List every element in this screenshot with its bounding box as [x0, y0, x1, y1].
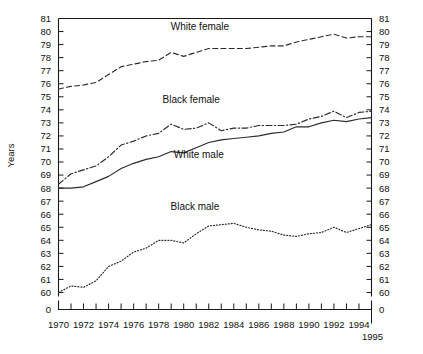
y-tick-label-right: 81 [379, 13, 390, 24]
y-tick-label-left: 68 [40, 183, 51, 194]
y-tick-label-left: 61 [40, 274, 51, 285]
y-tick-label-left: 63 [40, 248, 51, 259]
y-tick-label-left: 81 [40, 13, 51, 24]
y-tick-label-left: 69 [40, 169, 51, 180]
y-tick-label-right: 67 [379, 196, 390, 207]
series-label-black-male: Black male [171, 201, 220, 212]
y-tick-label-left: 75 [40, 91, 51, 102]
x-tick-label: 1984 [223, 319, 244, 330]
x-tick-label: 1986 [248, 319, 269, 330]
y-tick-label-left: 78 [40, 52, 51, 63]
y-tick-label-right: 66 [379, 209, 390, 220]
y-tick-label-right: 79 [379, 39, 390, 50]
y-tick-label-left: 60 [40, 287, 51, 298]
y-tick-label-right: 74 [379, 104, 390, 115]
series-label-black-female: Black female [163, 94, 221, 105]
y-tick-label-left: 72 [40, 130, 51, 141]
y-tick-label-right: 68 [379, 183, 390, 194]
y-tick-label-left: 62 [40, 261, 51, 272]
y-tick-label-right: 76 [379, 78, 390, 89]
y-tick-label-left: 73 [40, 117, 51, 128]
y-tick-label-left: 66 [40, 209, 51, 220]
x-tick-label: 1980 [173, 319, 194, 330]
y-tick-label-left: 79 [40, 39, 51, 50]
y-tick-label-left: 67 [40, 196, 51, 207]
y-tick-label-left: 77 [40, 65, 51, 76]
y-tick-label-right: 78 [379, 52, 390, 63]
y-tick-label-left: 76 [40, 78, 51, 89]
life-expectancy-chart: 8181808079797878777776767575747473737272… [0, 0, 423, 354]
y-tick-label-right: 62 [379, 261, 390, 272]
y-tick-label-right: 61 [379, 274, 390, 285]
y-tick-label-zero-left: 0 [46, 304, 51, 315]
y-tick-label-left: 74 [40, 104, 51, 115]
chart-canvas: 8181808079797878777776767575747473737272… [0, 0, 423, 354]
y-tick-label-right: 65 [379, 222, 390, 233]
y-tick-label-right: 75 [379, 91, 390, 102]
x-axis-baseline [59, 301, 372, 310]
y-tick-label-left: 80 [40, 26, 51, 37]
y-axis-title: Years [5, 143, 16, 167]
y-tick-label-right: 77 [379, 65, 390, 76]
x-tick-label-1995: 1995 [362, 331, 383, 342]
y-tick-label-left: 70 [40, 156, 51, 167]
y-tick-label-left: 71 [40, 143, 51, 154]
y-tick-label-left: 65 [40, 222, 51, 233]
x-tick-label: 1970 [48, 319, 69, 330]
x-tick-label: 1978 [148, 319, 169, 330]
series-line-white-female [59, 34, 372, 89]
y-tick-label-right: 60 [379, 287, 390, 298]
y-tick-label-right: 72 [379, 130, 390, 141]
y-tick-label-right: 73 [379, 117, 390, 128]
series-label-white-female: White female [171, 21, 230, 32]
y-tick-label-left: 64 [40, 235, 51, 246]
x-tick-label: 1982 [198, 319, 219, 330]
y-tick-label-zero-right: 0 [379, 304, 384, 315]
y-tick-label-right: 69 [379, 169, 390, 180]
x-tick-label: 1988 [273, 319, 294, 330]
y-tick-label-right: 70 [379, 156, 390, 167]
series-line-black-male [59, 223, 372, 292]
x-tick-label: 1992 [323, 319, 344, 330]
series-label-white-male: White male [174, 149, 224, 160]
y-tick-label-right: 64 [379, 235, 390, 246]
x-tick-label: 1976 [123, 319, 144, 330]
y-tick-label-right: 80 [379, 26, 390, 37]
x-tick-label: 1990 [298, 319, 319, 330]
y-tick-label-right: 71 [379, 143, 390, 154]
x-tick-label: 1974 [98, 319, 119, 330]
x-tick-label: 1994 [348, 319, 369, 330]
y-tick-label-right: 63 [379, 248, 390, 259]
x-tick-label: 1972 [73, 319, 94, 330]
